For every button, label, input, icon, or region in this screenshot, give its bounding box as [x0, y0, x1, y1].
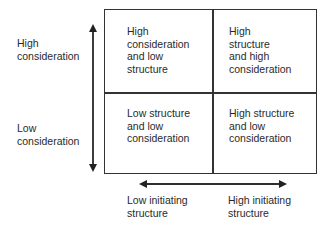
quadrant-grid: High consideration and low structure Hig… [104, 9, 317, 174]
horizontal-divider [105, 92, 316, 94]
x-axis-high-label: High initiating structure [228, 194, 291, 219]
quadrant-bottom-left: Low structure and low consideration [127, 107, 190, 145]
quadrant-top-right: High structure and high consideration [229, 25, 291, 75]
y-axis-high-label: High consideration [17, 37, 79, 62]
y-axis-low-label: Low consideration [17, 122, 79, 147]
x-axis-low-label: Low initiating structure [127, 194, 188, 219]
quadrant-top-left: High consideration and low structure [127, 25, 189, 75]
quadrant-bottom-right: High structure and low consideration [229, 107, 294, 145]
